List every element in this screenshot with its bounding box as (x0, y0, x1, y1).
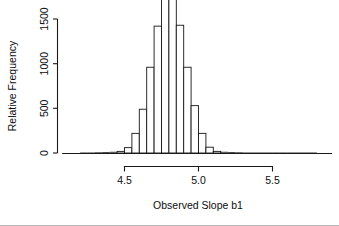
histogram-bar (191, 106, 198, 153)
y-tick-label-1500: 1500 (38, 7, 50, 31)
histogram-bar (132, 133, 139, 153)
histogram-bar (206, 147, 213, 153)
histogram-chart: 1500 1000 500 0 Relative Frequency 4.5 5… (0, 0, 339, 226)
histogram-bar (213, 151, 220, 153)
histogram-plot-panel: 1500 1000 500 0 Relative Frequency 4.5 5… (0, 0, 339, 226)
page-bottom-rule (0, 225, 339, 226)
histogram-bar (139, 109, 146, 153)
y-tick-label-0: 0 (38, 150, 50, 156)
x-tick-label-5-0: 5.0 (191, 174, 206, 186)
histogram-bar (199, 133, 206, 153)
histogram-bar (125, 148, 132, 153)
y-tick-label-1000: 1000 (38, 52, 50, 76)
histogram-bar (117, 151, 124, 153)
x-tick-label-4-5: 4.5 (117, 174, 132, 186)
histogram-bars (80, 0, 317, 153)
histogram-bar (147, 67, 154, 153)
histogram-bar (176, 25, 183, 153)
y-axis (53, 19, 58, 153)
y-tick-label-500: 500 (38, 99, 50, 117)
x-axis-title: Observed Slope b1 (153, 199, 243, 211)
x-tick-label-5-5: 5.5 (265, 174, 280, 186)
y-axis-title: Relative Frequency (6, 40, 18, 131)
x-axis (124, 167, 273, 172)
histogram-bar (184, 67, 191, 153)
histogram-bar (154, 26, 161, 153)
histogram-bar (169, 0, 176, 153)
histogram-bar (162, 0, 169, 153)
